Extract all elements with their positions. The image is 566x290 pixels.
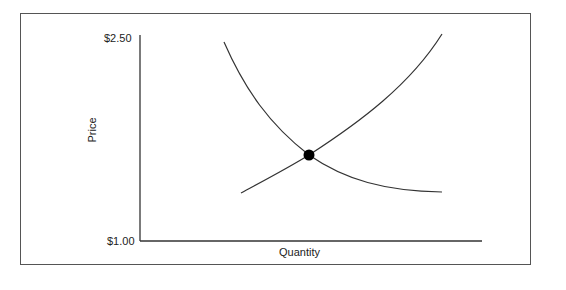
y-tick-bottom: $1.00 [107, 235, 135, 247]
y-tick-top: $2.50 [104, 32, 132, 44]
equilibrium-point [304, 150, 315, 161]
y-axis-title: Price [86, 115, 98, 145]
x-axis-title: Quantity [279, 246, 320, 258]
supply-curve [241, 34, 442, 193]
demand-curve [224, 42, 442, 192]
